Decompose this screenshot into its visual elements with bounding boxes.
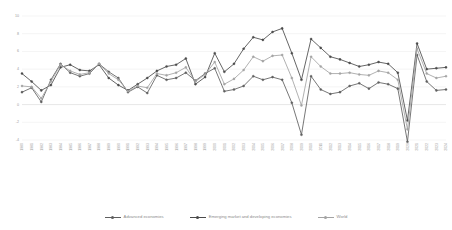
- data-point: [281, 27, 283, 29]
- data-point: [185, 57, 187, 59]
- y-tick-label: 8: [17, 32, 19, 36]
- data-point: [252, 75, 254, 77]
- data-point: [185, 72, 187, 74]
- data-point: [368, 64, 370, 66]
- data-point: [406, 141, 408, 143]
- data-point: [358, 82, 360, 84]
- legend-item[interactable]: Emerging market and developing economies: [190, 215, 292, 220]
- x-tick-label: 2018: [387, 143, 391, 151]
- data-point: [300, 104, 302, 106]
- x-tick-label: 1991: [126, 143, 130, 151]
- data-point: [329, 93, 331, 95]
- data-point: [300, 79, 302, 81]
- x-tick-label: 2007: [281, 143, 285, 151]
- data-point: [435, 89, 437, 91]
- x-tick-label: 2008: [290, 143, 294, 151]
- legend-label: World: [337, 215, 348, 219]
- data-point: [435, 67, 437, 69]
- x-tick-label: 2020: [406, 143, 410, 151]
- data-point: [31, 80, 33, 82]
- data-point: [291, 52, 293, 54]
- data-point: [214, 52, 216, 54]
- data-point: [50, 80, 52, 82]
- data-point: [291, 102, 293, 104]
- data-point: [358, 73, 360, 75]
- data-point: [252, 36, 254, 38]
- x-tick-label: 1996: [175, 143, 179, 151]
- data-point: [21, 73, 23, 75]
- data-point: [214, 61, 216, 63]
- series-layer: [21, 27, 447, 142]
- data-point: [165, 65, 167, 67]
- x-tick-label: 1990: [117, 143, 121, 151]
- gdp-growth-line-chart: -4-20246810 1980198119821983198419851986…: [0, 0, 452, 230]
- data-point: [21, 91, 23, 93]
- data-point: [223, 83, 225, 85]
- data-point: [368, 74, 370, 76]
- data-point: [146, 92, 148, 94]
- x-tick-label: 2009: [300, 143, 304, 151]
- data-point: [214, 67, 216, 69]
- data-point: [329, 73, 331, 75]
- data-point: [397, 88, 399, 90]
- data-point: [117, 79, 119, 81]
- data-point: [377, 81, 379, 83]
- data-point: [262, 39, 264, 41]
- x-tick-label: 2017: [377, 143, 381, 151]
- x-tick-label: 2024: [444, 143, 448, 151]
- data-point: [127, 90, 129, 92]
- x-tick-label: 1980: [20, 143, 24, 151]
- data-point: [426, 80, 428, 82]
- data-point: [271, 55, 273, 57]
- x-tick-label: 2006: [271, 143, 275, 151]
- x-tick-label: 1984: [59, 143, 63, 151]
- x-tick-label: 1997: [184, 143, 188, 151]
- data-point: [445, 66, 447, 68]
- x-tick-label: 2004: [252, 143, 256, 151]
- data-point: [339, 58, 341, 60]
- data-point: [397, 72, 399, 74]
- data-point: [310, 56, 312, 58]
- data-point: [40, 101, 42, 103]
- legend-swatch-icon: [318, 215, 334, 220]
- x-tick-label: 2011: [319, 143, 323, 151]
- data-point: [233, 63, 235, 65]
- data-point: [416, 48, 418, 50]
- data-point: [69, 70, 71, 72]
- data-point: [175, 72, 177, 74]
- y-tick-label: 2: [17, 85, 19, 89]
- data-point: [243, 48, 245, 50]
- data-point: [339, 73, 341, 75]
- data-point: [98, 63, 100, 65]
- data-point: [146, 77, 148, 79]
- data-point: [156, 73, 158, 75]
- series-line: [22, 55, 446, 142]
- data-point: [368, 88, 370, 90]
- y-tick-label: 10: [15, 14, 19, 18]
- data-point: [233, 78, 235, 80]
- x-tick-label: 2005: [261, 143, 265, 151]
- x-tick-label: 1986: [78, 143, 82, 151]
- data-point: [40, 89, 42, 91]
- legend-swatch-icon: [105, 215, 121, 220]
- x-tick-label: 2000: [213, 143, 217, 151]
- x-axis-tick-labels: 1980198119821983198419851986198719881989…: [20, 143, 448, 151]
- x-tick-label: 1983: [49, 143, 53, 151]
- data-point: [320, 47, 322, 49]
- x-tick-label: 2013: [338, 143, 342, 151]
- legend-item[interactable]: World: [318, 215, 348, 220]
- y-axis-tick-labels: -4-20246810: [15, 14, 19, 142]
- data-point: [387, 72, 389, 74]
- data-point: [339, 91, 341, 93]
- x-tick-label: 1985: [69, 143, 73, 151]
- data-point: [320, 88, 322, 90]
- x-tick-label: 1992: [136, 143, 140, 151]
- legend-label: Advanced economies: [124, 215, 164, 219]
- legend-item[interactable]: Advanced economies: [105, 215, 164, 220]
- data-point: [329, 56, 331, 58]
- x-tick-label: 1988: [97, 143, 101, 151]
- x-tick-label: 2014: [348, 143, 352, 151]
- data-point: [79, 69, 81, 71]
- data-point: [185, 66, 187, 68]
- x-tick-label: 2022: [425, 143, 429, 151]
